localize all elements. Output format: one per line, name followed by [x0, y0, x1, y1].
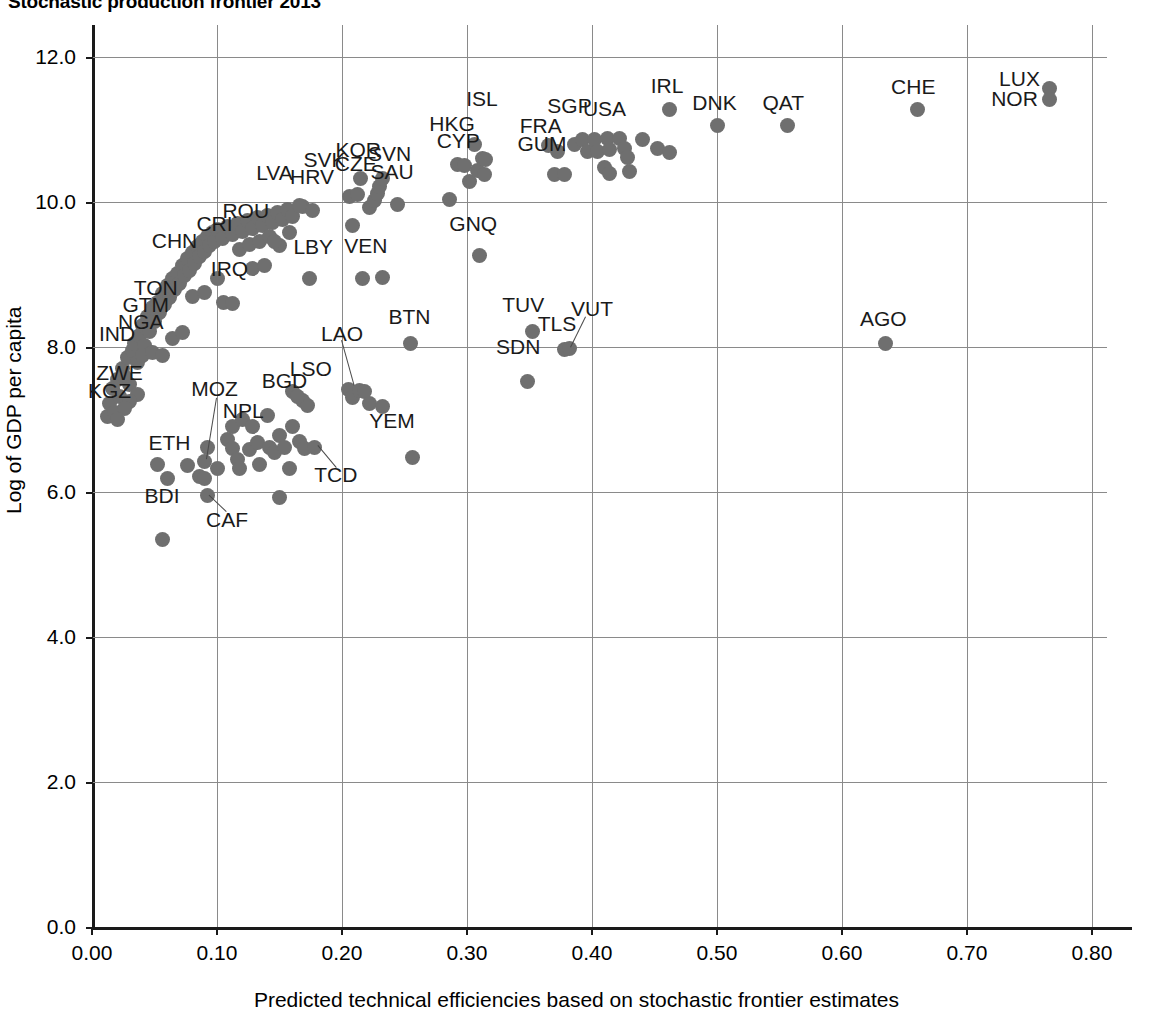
- country-label: SVK: [303, 148, 345, 172]
- scatter-point: [290, 389, 305, 404]
- gridline-horizontal: [92, 347, 1107, 348]
- scatter-point: [477, 167, 492, 182]
- scatter-point: [200, 488, 215, 503]
- scatter-point: [525, 324, 540, 339]
- x-tick: [1091, 927, 1093, 935]
- scatter-point: [245, 419, 260, 434]
- scatter-point: [478, 152, 493, 167]
- leader-line: [317, 445, 337, 468]
- chart-title: Stochastic production frontier 2013: [8, 0, 321, 13]
- x-axis-line: [92, 927, 1132, 930]
- country-label: LSO: [290, 357, 332, 381]
- scatter-point: [345, 218, 360, 233]
- x-tick-label: 0.60: [822, 941, 863, 965]
- x-tick-label: 0.30: [447, 941, 488, 965]
- scatter-point: [232, 461, 247, 476]
- scatter-point: [353, 171, 368, 186]
- scatter-point: [520, 374, 535, 389]
- scatter-point: [878, 336, 893, 351]
- country-label: LUX: [999, 67, 1040, 91]
- country-label: LVA: [256, 161, 293, 185]
- x-tick: [216, 927, 218, 935]
- scatter-point: [710, 118, 725, 133]
- gridline-horizontal: [92, 202, 1107, 203]
- gridline-horizontal: [92, 57, 1107, 58]
- scatter-point: [910, 102, 925, 117]
- country-label: HRV: [290, 165, 334, 189]
- gridline-vertical: [717, 25, 718, 927]
- scatter-point: [375, 171, 390, 186]
- scatter-point: [210, 271, 225, 286]
- scatter-point: [110, 412, 125, 427]
- scatter-point: [282, 225, 297, 240]
- x-axis-title: Predicted technical efficiencies based o…: [0, 988, 1153, 1012]
- scatter-point: [302, 271, 317, 286]
- scatter-point: [160, 471, 175, 486]
- scatter-point: [150, 457, 165, 472]
- gridline-horizontal: [92, 637, 1107, 638]
- country-label: VEN: [344, 234, 387, 258]
- country-label: FRA: [520, 114, 562, 138]
- country-label: ETH: [149, 431, 191, 455]
- x-tick: [91, 927, 93, 935]
- scatter-point: [602, 166, 617, 181]
- plot-area: 0.02.04.06.08.010.012.00.000.100.200.300…: [92, 25, 1132, 929]
- y-tick-label: 10.0: [35, 190, 76, 214]
- country-label: SGP: [547, 94, 591, 118]
- x-tick: [716, 927, 718, 935]
- scatter-point: [155, 348, 170, 363]
- scatter-point: [197, 471, 212, 486]
- scatter-point: [252, 457, 267, 472]
- scatter-point: [375, 399, 390, 414]
- scatter-point: [1042, 92, 1057, 107]
- scatter-point: [662, 102, 677, 117]
- scatter-point: [355, 271, 370, 286]
- scatter-point: [662, 145, 677, 160]
- y-tick-label: 8.0: [47, 335, 76, 359]
- gridline-vertical: [1092, 25, 1093, 927]
- scatter-point: [285, 419, 300, 434]
- scatter-point: [282, 461, 297, 476]
- leader-line: [570, 316, 586, 347]
- country-label: SVN: [368, 142, 411, 166]
- scatter-point: [405, 450, 420, 465]
- x-tick-label: 0.20: [322, 941, 363, 965]
- y-tick: [86, 347, 93, 349]
- country-label: USA: [583, 97, 626, 121]
- scatter-point: [622, 164, 637, 179]
- country-label: LBY: [293, 235, 333, 259]
- x-tick: [966, 927, 968, 935]
- scatter-point: [557, 167, 572, 182]
- country-label: QAT: [762, 91, 804, 115]
- y-tick-label: 6.0: [47, 480, 76, 504]
- country-label: YEM: [369, 409, 415, 433]
- scatter-point: [210, 461, 225, 476]
- y-axis-line: [92, 25, 95, 929]
- country-label: TLS: [538, 312, 577, 336]
- scatter-point: [442, 192, 457, 207]
- y-tick-label: 12.0: [35, 45, 76, 69]
- country-label: IRL: [651, 74, 684, 98]
- scatter-point: [277, 440, 292, 455]
- country-label: TUV: [502, 293, 544, 317]
- y-tick: [86, 782, 93, 784]
- scatter-point: [225, 296, 240, 311]
- gridline-vertical: [967, 25, 968, 927]
- country-label: CAF: [206, 508, 248, 532]
- y-tick-label: 0.0: [47, 915, 76, 939]
- x-tick-label: 0.40: [572, 941, 613, 965]
- x-tick-label: 0.70: [947, 941, 988, 965]
- scatter-point: [155, 532, 170, 547]
- scatter-point: [260, 408, 275, 423]
- country-label: CHE: [891, 75, 935, 99]
- gridline-horizontal: [92, 782, 1107, 783]
- scatter-point: [780, 118, 795, 133]
- chart-page: Stochastic production frontier 2013 0.02…: [0, 0, 1153, 1028]
- x-tick: [841, 927, 843, 935]
- country-label: AGO: [860, 307, 907, 331]
- country-label: BTN: [389, 305, 431, 329]
- country-label: NOR: [991, 87, 1038, 111]
- x-tick-label: 0.80: [1072, 941, 1113, 965]
- country-label: DNK: [692, 91, 736, 115]
- gridline-vertical: [592, 25, 593, 927]
